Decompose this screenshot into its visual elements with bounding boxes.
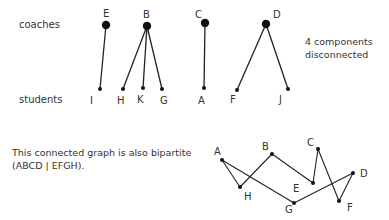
- components-note-line-2: disconnected: [305, 48, 373, 61]
- label-coach-B: B: [143, 9, 150, 20]
- edge-A-H: [222, 160, 240, 187]
- student-node-F: [235, 88, 239, 92]
- bottom-edges: [222, 149, 353, 203]
- node-H: [238, 185, 242, 189]
- edge-B-E: [272, 154, 313, 183]
- top-nodes: [98, 19, 290, 92]
- label-node-G: G: [285, 204, 293, 215]
- node-C: [316, 147, 320, 151]
- edge-D-J: [266, 24, 288, 89]
- label-node-A: A: [214, 146, 221, 157]
- label-node-B: B: [262, 141, 269, 152]
- label-student-A: A: [198, 95, 205, 106]
- node-A: [220, 158, 224, 162]
- label-node-H: H: [244, 191, 252, 202]
- label-coach-C: C: [195, 9, 202, 20]
- label-node-F: F: [347, 202, 353, 213]
- edge-C-A: [204, 23, 205, 88]
- components-note: 4 components disconnected: [305, 35, 373, 61]
- top-edges: [100, 23, 288, 90]
- edge-D-G: [294, 173, 353, 203]
- label-student-F: F: [230, 94, 236, 105]
- components-note-line-1: 4 components: [305, 35, 373, 48]
- node-E: [311, 181, 315, 185]
- coach-node-D: [262, 20, 270, 28]
- edge-E-C: [313, 149, 318, 183]
- label-student-J: J: [279, 94, 282, 105]
- coach-node-C: [201, 19, 209, 27]
- bipartite-caption: This connected graph is also bipartite (…: [12, 146, 191, 172]
- label-node-C: C: [307, 137, 314, 148]
- edge-A-G: [222, 160, 294, 203]
- label-student-K: K: [137, 94, 144, 105]
- edge-E-I: [100, 25, 106, 89]
- student-node-K: [141, 86, 145, 90]
- students-row-label: students: [19, 94, 62, 105]
- label-coach-E: E: [103, 8, 109, 19]
- graph-canvas: [0, 0, 389, 220]
- caption-line-1: This connected graph is also bipartite: [12, 146, 191, 159]
- student-node-G: [160, 87, 164, 91]
- node-F: [337, 199, 341, 203]
- edge-H-B: [240, 154, 272, 187]
- label-student-I: I: [90, 95, 93, 106]
- caption-line-2: (ABCD | EFGH).: [12, 159, 191, 172]
- edge-D-F: [237, 24, 266, 90]
- label-node-E: E: [293, 183, 299, 194]
- bottom-nodes: [220, 147, 355, 205]
- student-node-A: [202, 86, 206, 90]
- label-node-D: D: [360, 168, 368, 179]
- node-B: [270, 152, 274, 156]
- coaches-row-label: coaches: [19, 19, 60, 30]
- coach-node-B: [143, 22, 151, 30]
- student-node-J: [286, 87, 290, 91]
- label-student-G: G: [160, 95, 168, 106]
- edge-B-G: [147, 26, 162, 89]
- edge-C-F: [318, 149, 339, 201]
- node-D: [351, 171, 355, 175]
- coach-node-E: [102, 21, 110, 29]
- edge-F-D: [339, 173, 353, 201]
- student-node-H: [121, 87, 125, 91]
- label-coach-D: D: [273, 9, 281, 20]
- label-student-H: H: [117, 95, 125, 106]
- student-node-I: [98, 87, 102, 91]
